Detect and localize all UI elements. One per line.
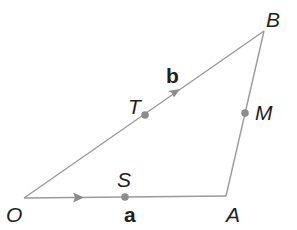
point-s [121, 193, 129, 201]
label-a: A [224, 203, 240, 226]
vector-label-a: a [124, 203, 136, 226]
triangle-diagram: O A B S T M a b [0, 0, 297, 230]
point-t [141, 111, 149, 119]
point-m [241, 109, 249, 117]
label-b: B [266, 8, 280, 31]
label-o: O [6, 203, 22, 226]
vector-label-b: b [166, 64, 179, 87]
label-t: T [128, 95, 143, 118]
label-s: S [117, 168, 131, 191]
label-m: M [255, 101, 273, 124]
